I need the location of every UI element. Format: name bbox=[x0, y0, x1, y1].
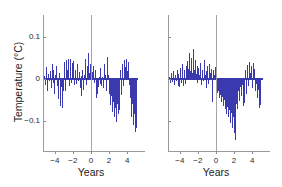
x-tick-mark bbox=[127, 151, 128, 154]
bar bbox=[260, 79, 261, 105]
bar bbox=[254, 69, 255, 79]
x-tick-mark bbox=[91, 151, 92, 154]
plot-area-left bbox=[44, 22, 138, 144]
bar bbox=[83, 79, 84, 90]
y-axis-spine-left bbox=[43, 15, 44, 151]
figure-root: Temperature (°C) 0.10−0.1 −4−2024 Years … bbox=[0, 0, 282, 187]
x-tick-label: 4 bbox=[240, 156, 264, 165]
y-tick-mark bbox=[168, 79, 171, 80]
bar bbox=[136, 79, 137, 129]
bar bbox=[248, 79, 249, 87]
zero-reference-line-left bbox=[91, 15, 92, 151]
x-tick-mark bbox=[55, 151, 56, 154]
bar bbox=[103, 79, 104, 88]
chart-panel-right: −4−2024 Years bbox=[145, 0, 282, 187]
x-tick-mark bbox=[109, 151, 110, 154]
bar bbox=[252, 79, 253, 88]
y-tick-label: 0 bbox=[36, 74, 40, 83]
y-tick-label: −0.1 bbox=[24, 116, 40, 125]
bar bbox=[212, 79, 213, 103]
x-axis-spine-left bbox=[43, 151, 145, 152]
bar bbox=[54, 79, 55, 94]
y-tick-mark bbox=[43, 79, 46, 80]
y-tick-mark bbox=[43, 37, 46, 38]
x-axis-spine-right bbox=[168, 151, 270, 152]
y-tick-mark bbox=[43, 121, 46, 122]
x-tick-mark bbox=[180, 151, 181, 154]
x-tick-mark bbox=[198, 151, 199, 154]
x-tick-mark bbox=[216, 151, 217, 154]
x-tick-mark bbox=[73, 151, 74, 154]
plot-area-right bbox=[169, 22, 263, 144]
y-tick-mark bbox=[168, 121, 171, 122]
x-tick-label: 4 bbox=[115, 156, 139, 165]
y-axis-label: Temperature (°C) bbox=[12, 22, 24, 142]
bar bbox=[65, 79, 66, 91]
bar bbox=[86, 79, 87, 85]
y-tick-label: 0.1 bbox=[29, 32, 40, 41]
x-axis-label-right: Years bbox=[169, 166, 263, 178]
bar bbox=[106, 79, 107, 92]
x-axis-label-left: Years bbox=[44, 166, 138, 178]
bar bbox=[56, 66, 57, 79]
bar bbox=[123, 79, 124, 86]
y-axis-spine-right bbox=[168, 15, 169, 151]
x-tick-mark bbox=[252, 151, 253, 154]
zero-reference-line-right bbox=[216, 15, 217, 151]
y-tick-mark bbox=[168, 37, 171, 38]
chart-panel-left: Temperature (°C) 0.10−0.1 −4−2024 Years bbox=[0, 0, 145, 187]
x-tick-mark bbox=[234, 151, 235, 154]
y-axis-label-wrapper: Temperature (°C) bbox=[2, 0, 18, 187]
